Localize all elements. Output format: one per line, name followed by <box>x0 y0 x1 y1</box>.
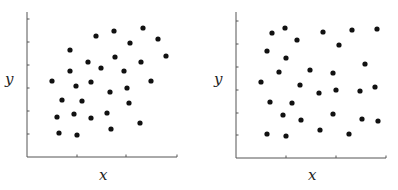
data-point <box>54 114 59 119</box>
data-point <box>372 84 377 89</box>
data-point <box>56 130 61 135</box>
data-point <box>346 131 351 136</box>
data-point <box>111 28 116 33</box>
data-point <box>349 27 354 32</box>
data-point <box>140 25 145 30</box>
data-point <box>269 30 274 35</box>
x-axis-label: x <box>99 166 108 184</box>
data-point <box>138 59 143 64</box>
y-axis-label: y <box>213 70 223 88</box>
data-point <box>283 55 288 60</box>
data-point <box>74 132 79 137</box>
data-point <box>320 29 325 34</box>
data-point <box>137 120 142 125</box>
data-point <box>264 48 269 53</box>
data-point <box>298 117 303 122</box>
data-point <box>280 112 285 117</box>
data-point <box>127 40 132 45</box>
data-point <box>107 89 112 94</box>
data-point <box>49 78 54 83</box>
data-point <box>316 90 321 95</box>
scatter-plot-correlated: yx <box>4 12 177 184</box>
data-point <box>59 97 64 102</box>
data-point <box>375 118 380 123</box>
data-point <box>85 59 90 64</box>
data-point <box>126 100 131 105</box>
data-point <box>98 65 103 70</box>
data-point <box>93 33 98 38</box>
data-point <box>88 79 93 84</box>
data-point <box>148 78 153 83</box>
figure: yx yx <box>0 0 398 190</box>
data-point <box>333 87 338 92</box>
data-point <box>359 116 364 121</box>
data-point <box>282 25 287 30</box>
data-point <box>67 47 72 52</box>
data-point <box>163 53 168 58</box>
data-point <box>112 54 117 59</box>
data-point <box>374 26 379 31</box>
data-point <box>283 133 288 138</box>
data-point <box>307 67 312 72</box>
data-point <box>73 83 78 88</box>
data-point <box>71 111 76 116</box>
data-point <box>330 111 335 116</box>
x-axis-label: x <box>308 166 317 184</box>
data-point <box>276 69 281 74</box>
data-point <box>108 126 113 131</box>
data-point <box>104 110 109 115</box>
data-point <box>258 79 263 84</box>
data-point <box>155 36 160 41</box>
data-point <box>357 88 362 93</box>
data-point <box>289 100 294 105</box>
y-axis-label: y <box>4 70 14 88</box>
data-point <box>362 61 367 66</box>
data-point <box>264 131 269 136</box>
data-point <box>330 70 335 75</box>
data-point <box>88 115 93 120</box>
data-point <box>121 68 126 73</box>
data-point <box>267 99 272 104</box>
scatter-plot-uncorrelated: yx <box>213 12 386 184</box>
data-point <box>336 42 341 47</box>
data-point <box>294 37 299 42</box>
data-point <box>79 98 84 103</box>
data-point <box>124 85 129 90</box>
data-point <box>297 82 302 87</box>
data-point <box>67 68 72 73</box>
data-point <box>317 127 322 132</box>
